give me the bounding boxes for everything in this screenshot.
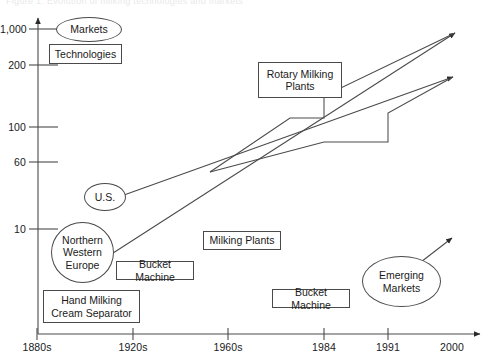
x-tick-label-1960s: 1960s [198, 341, 258, 353]
x-tick-label-1991: 1991 [358, 341, 418, 353]
y-tick-label-10: 10 [0, 223, 26, 235]
annotation-bucket-machine-right-label: Bucket Machine [273, 286, 349, 311]
annotation-emerging-markets[interactable]: EmergingMarkets [362, 256, 441, 307]
annotation-milking-plants[interactable]: Milking Plants [203, 231, 281, 250]
annotation-technologies-label: Technologies [52, 48, 119, 60]
x-tick-label-2000: 2000 [422, 341, 482, 353]
annotation-bucket-machine-left[interactable]: Bucket Machine [116, 261, 194, 280]
annotation-hand-milking-cream-separator[interactable]: Hand MilkingCream Separator [43, 290, 140, 323]
chart-canvas: Figure 1. Evolution of milking technolog… [0, 0, 499, 357]
annotation-technologies[interactable]: Technologies [49, 44, 122, 64]
annotation-markets[interactable]: Markets [56, 17, 122, 42]
y-tick-label-60: 60 [0, 156, 26, 168]
x-tick-label-1920s: 1920s [103, 341, 163, 353]
x-tick-label-1880s: 1880s [7, 341, 67, 353]
annotation-northern-western-europe-label: NorthernWesternEurope [59, 234, 106, 271]
annotation-hand-milking-cream-separator-label: Hand MilkingCream Separator [48, 294, 135, 319]
annotation-bucket-machine-left-label: Bucket Machine [117, 258, 193, 283]
annotation-markets-label: Markets [67, 23, 110, 35]
annotation-northern-western-europe[interactable]: NorthernWesternEurope [51, 222, 114, 283]
y-tick-label-200: 200 [0, 59, 26, 71]
annotation-bucket-machine-right[interactable]: Bucket Machine [272, 289, 350, 308]
annotation-milking-plants-label: Milking Plants [207, 234, 278, 246]
annotation-us[interactable]: U.S. [84, 183, 126, 211]
annotation-rotary-milking-plants-label: Rotary MilkingPlants [264, 68, 337, 93]
y-tick-label-100: 100 [0, 121, 26, 133]
y-tick-label-1000: 1,000 [0, 23, 26, 35]
annotation-rotary-milking-plants[interactable]: Rotary MilkingPlants [258, 62, 342, 98]
annotation-us-label: U.S. [92, 191, 118, 203]
annotation-emerging-markets-label: EmergingMarkets [376, 269, 427, 294]
x-tick-label-1984: 1984 [294, 341, 354, 353]
